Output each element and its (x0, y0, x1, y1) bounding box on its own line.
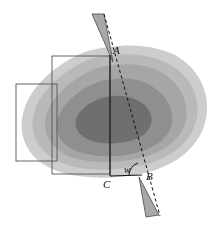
figure-canvas: A B C w (0, 0, 223, 232)
wedge-bottom (139, 177, 159, 217)
contour-band-group (22, 45, 207, 177)
label-angle-w: w (124, 165, 131, 175)
label-point-C: C (103, 178, 111, 190)
label-point-A: A (112, 44, 120, 56)
label-point-B: B (146, 170, 153, 182)
contour-diagram-figure: A B C w (0, 0, 223, 232)
